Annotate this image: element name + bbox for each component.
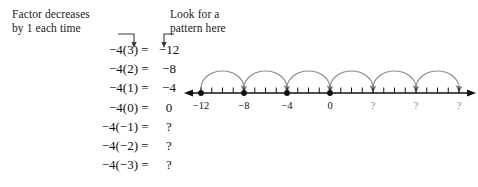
axis-arrow-right-icon <box>467 89 476 96</box>
equals-sign: = <box>138 100 152 116</box>
tick-label: 0 <box>315 100 345 111</box>
equation-row: −4(−1) = ? <box>60 119 192 138</box>
equals-sign: = <box>138 80 152 96</box>
equation-row: −4(1) = −4 <box>60 80 192 99</box>
equation-lhs: −4(1) <box>60 80 138 96</box>
tick-label: ? <box>358 100 388 111</box>
equation-row: −4(−3) = ? <box>60 157 192 176</box>
equation-row: −4(3) = −12 <box>60 42 192 61</box>
tick-label: −4 <box>272 100 302 111</box>
jump-arc-group <box>201 71 462 93</box>
equation-lhs: −4(−3) <box>60 157 138 173</box>
tick-label: ? <box>401 100 431 111</box>
equals-sign: = <box>138 119 152 135</box>
equation-result: ? <box>152 138 186 154</box>
equation-row: −4(0) = 0 <box>60 100 192 119</box>
tick-label: ? <box>444 100 474 111</box>
equation-result: −8 <box>152 61 186 77</box>
equals-sign: = <box>138 157 152 173</box>
equation-result: ? <box>152 119 186 135</box>
tick-label: −12 <box>186 100 216 111</box>
number-line-diagram: −12 −8 −4 0 ? ? ? <box>182 62 478 118</box>
equation-result: −4 <box>152 80 186 96</box>
equation-lhs: −4(0) <box>60 100 138 116</box>
axis-arrow-left-icon <box>184 89 193 96</box>
equals-sign: = <box>138 61 152 77</box>
equation-row: −4(−2) = ? <box>60 138 192 157</box>
equation-result: −12 <box>152 42 186 58</box>
equation-lhs: −4(3) <box>60 42 138 58</box>
equation-result: ? <box>152 157 186 173</box>
equation-lhs: −4(2) <box>60 61 138 77</box>
equation-result: 0 <box>152 100 186 116</box>
tick-label: −8 <box>229 100 259 111</box>
equation-lhs: −4(−1) <box>60 119 138 135</box>
equation-list: −4(3) = −12 −4(2) = −8 −4(1) = −4 −4(0) … <box>60 42 192 176</box>
equation-row: −4(2) = −8 <box>60 61 192 80</box>
caption-factor-decreases: Factor decreases by 1 each time <box>12 8 90 35</box>
equation-lhs: −4(−2) <box>60 138 138 154</box>
number-line-svg <box>182 62 478 102</box>
equals-sign: = <box>138 42 152 58</box>
equals-sign: = <box>138 138 152 154</box>
